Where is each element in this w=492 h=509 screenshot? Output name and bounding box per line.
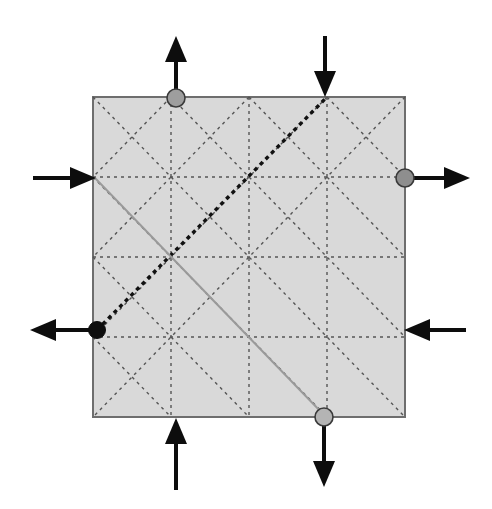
lattice-figure [0, 0, 492, 509]
node-bottom-grey[interactable] [315, 408, 333, 426]
diagram-canvas [0, 0, 492, 509]
node-top-grey[interactable] [167, 89, 185, 107]
node-right-grey[interactable] [396, 169, 414, 187]
node-left-black[interactable] [89, 322, 106, 339]
